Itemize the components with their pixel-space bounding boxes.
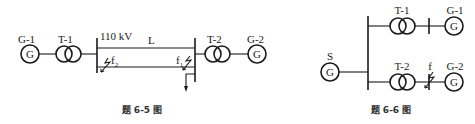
load-arrow-icon xyxy=(184,74,195,92)
fault-f1-icon xyxy=(183,56,191,70)
transformer-t2-icon xyxy=(205,46,230,62)
t2-label: T-2 xyxy=(395,60,410,72)
bus-voltage-label: 110 kV xyxy=(100,30,132,42)
figure-6-6: S G T-1 G-1 G T-2 f xyxy=(321,4,464,115)
t1-label: T-1 xyxy=(58,33,73,45)
source-s-symbol: G xyxy=(326,66,334,78)
fault-f2-icon xyxy=(101,58,110,72)
caption-6-6: 题 6-6 图 xyxy=(370,105,412,115)
transformer-t2-icon xyxy=(390,74,415,90)
t2-label: T-2 xyxy=(207,33,222,45)
fault-f-label: f xyxy=(428,60,432,72)
caption-6-5: 题 6-5 图 xyxy=(121,105,163,115)
line-l-label: L xyxy=(148,34,155,46)
g1-symbol: G xyxy=(26,48,34,60)
figure-6-5: G-1 G T-1 110 kV L f2 f1 xyxy=(18,30,266,115)
transformer-t1-icon xyxy=(56,46,81,62)
g2-label: G-2 xyxy=(247,33,264,45)
diagram-canvas: G-1 G T-1 110 kV L f2 f1 xyxy=(0,0,475,124)
g1-symbol: G xyxy=(450,20,458,32)
g2-symbol: G xyxy=(253,48,261,60)
g2-label: G-2 xyxy=(446,60,463,72)
g1-label: G-1 xyxy=(446,4,463,16)
g2-symbol: G xyxy=(450,76,458,88)
source-s-label: S xyxy=(327,50,333,62)
transformer-t1-icon xyxy=(390,18,415,34)
g1-label: G-1 xyxy=(18,33,35,45)
t1-label: T-1 xyxy=(395,4,410,16)
